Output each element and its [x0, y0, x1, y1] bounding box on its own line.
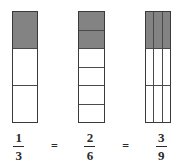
equation-row: 1 3 = 2 6 = 3 9 [0, 126, 180, 166]
bar-row [79, 31, 104, 50]
bar-cell [79, 49, 104, 67]
numerator: 1 [16, 131, 23, 145]
bar-cell [154, 12, 162, 48]
fraction-three-ninths: 3 9 [156, 131, 167, 162]
bar-cell [79, 68, 104, 86]
fraction-divider [156, 146, 167, 147]
bar-row [79, 86, 104, 105]
bar-cell [146, 49, 154, 85]
equals-sign-second: = [122, 140, 129, 152]
bar-row [146, 86, 170, 122]
fraction-divider [13, 146, 24, 147]
denominator: 9 [158, 148, 165, 162]
fraction-bar-thirds [12, 11, 38, 123]
bar-cell [146, 86, 154, 122]
fraction-bar-ninths [145, 11, 171, 123]
bar-cell [13, 86, 37, 122]
bar-row [13, 49, 37, 86]
bar-row [13, 86, 37, 122]
bar-row [79, 68, 104, 87]
fraction-divider [84, 146, 95, 147]
bar-cell [163, 86, 170, 122]
fraction-two-sixths: 2 6 [84, 131, 95, 162]
numerator: 3 [158, 131, 165, 145]
bar-cell [154, 86, 162, 122]
bar-row [79, 12, 104, 31]
bar-cell [79, 31, 104, 49]
equals-sign-first: = [51, 140, 58, 152]
fraction-bar-sixths [78, 11, 105, 123]
bar-cell [163, 12, 170, 48]
bar-row [13, 12, 37, 49]
bar-cell [13, 49, 37, 85]
bar-row [146, 12, 170, 49]
numerator: 2 [87, 131, 94, 145]
bar-row [79, 49, 104, 68]
bar-cell [79, 86, 104, 104]
denominator: 6 [87, 148, 94, 162]
bar-cell [163, 49, 170, 85]
fraction-one-third: 1 3 [13, 131, 24, 162]
denominator: 3 [16, 148, 23, 162]
bar-row [79, 105, 104, 123]
bar-row [146, 49, 170, 86]
bar-cell [146, 12, 154, 48]
bar-cell [154, 49, 162, 85]
bar-cell [13, 12, 37, 48]
bar-cell [79, 12, 104, 30]
equivalent-fractions-figure: 1 3 = 2 6 = 3 9 [0, 0, 180, 166]
bar-cell [79, 105, 104, 123]
